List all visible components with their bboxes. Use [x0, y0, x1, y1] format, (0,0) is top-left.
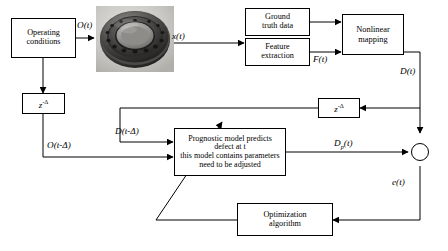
- prognostic-block-diagram: Operating conditions z-Δ Ground truth da…: [0, 0, 448, 251]
- ground-truth-data-label: Ground truth data: [260, 13, 295, 31]
- delay-block-right[interactable]: z-Δ: [318, 98, 360, 118]
- summing-junction[interactable]: [411, 143, 429, 161]
- operating-conditions-box[interactable]: Operating conditions: [11, 18, 76, 58]
- delay-left-label: z-Δ: [39, 98, 49, 110]
- optimization-algorithm-box[interactable]: Optimization algorithm: [237, 203, 333, 236]
- bearing-photo: [96, 6, 174, 72]
- nonlinear-mapping-label: Nonlinear mapping: [354, 25, 392, 43]
- edge-nonlinear-to-summing: [404, 52, 420, 133]
- edge-delay-left-to-prognostic: [43, 114, 173, 157]
- nonlinear-mapping-box[interactable]: Nonlinear mapping: [342, 14, 404, 55]
- optimization-algorithm-label: Optimization algorithm: [261, 211, 308, 229]
- signal-label-f-t: F(t): [313, 54, 327, 64]
- prognostic-model-box[interactable]: Prognostic model predicts defect at t th…: [174, 128, 286, 176]
- signal-label-dp-t: Dp(t): [334, 138, 353, 150]
- signal-label-d-t-delta: D(t-Δ): [115, 126, 139, 136]
- signal-label-d-t: D(t): [400, 66, 415, 76]
- delay-block-left[interactable]: z-Δ: [22, 93, 65, 114]
- delay-right-label: z-Δ: [334, 102, 344, 114]
- signal-label-x-t: x(t): [172, 31, 185, 41]
- prognostic-model-label: Prognostic model predicts defect at t th…: [178, 135, 281, 170]
- ground-truth-data-box[interactable]: Ground truth data: [245, 8, 310, 36]
- operating-conditions-label: Operating conditions: [24, 29, 62, 47]
- signal-label-o-t-delta: O(t-Δ): [47, 140, 71, 150]
- signal-label-e-t: e(t): [392, 177, 405, 187]
- edge-summing-to-optimization: [333, 166, 420, 220]
- feature-extraction-label: Feature extraction: [259, 43, 296, 61]
- signal-label-o-t: O(t): [77, 20, 92, 30]
- feature-extraction-box[interactable]: Feature extraction: [245, 38, 310, 66]
